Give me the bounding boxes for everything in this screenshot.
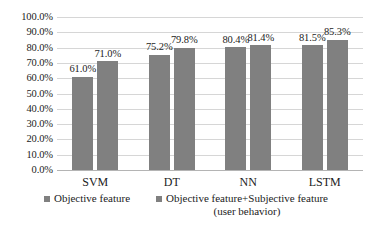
- bar-pair: 80.4%81.4%: [225, 17, 271, 170]
- bar-group: 61.0%71.0%: [57, 17, 134, 170]
- x-axis-category-label: LSTM: [287, 173, 364, 191]
- legend-swatch-icon: [44, 196, 50, 202]
- bar[interactable]: [174, 48, 195, 170]
- bar-value-label: 80.4%: [222, 35, 249, 46]
- y-axis-tick-label: 80.0%: [0, 42, 53, 53]
- y-axis-tick-label: 70.0%: [0, 58, 53, 69]
- bar-slot: 61.0%: [72, 17, 93, 170]
- bar-value-label: 85.3%: [324, 27, 351, 38]
- bar-slot: 75.2%: [149, 17, 170, 170]
- y-axis-tick-label: 0.0%: [0, 165, 53, 176]
- x-axis-category-label: NN: [210, 173, 287, 191]
- bar-chart: 100.0%90.0%80.0%70.0%60.0%50.0%40.0%30.0…: [0, 0, 372, 229]
- y-axis-tick-label: 30.0%: [0, 119, 53, 130]
- plot-area: 61.0%71.0%75.2%79.8%80.4%81.4%81.5%85.3%: [57, 17, 363, 170]
- bar[interactable]: [327, 40, 348, 171]
- bar-pair: 61.0%71.0%: [72, 17, 118, 170]
- bar-value-label: 75.2%: [146, 42, 173, 53]
- chart-legend: Objective featureObjective feature+Subje…: [0, 192, 372, 218]
- y-axis-tick-label: 40.0%: [0, 104, 53, 115]
- bar-value-label: 81.4%: [247, 33, 274, 44]
- legend-label-line2: (user behavior): [166, 205, 328, 218]
- legend-label-line1: Objective feature+Subjective feature: [166, 192, 328, 204]
- legend-label: Objective feature+Subjective feature(use…: [166, 192, 328, 218]
- legend-item[interactable]: Objective feature: [44, 192, 130, 205]
- bar-groups: 61.0%71.0%75.2%79.8%80.4%81.4%81.5%85.3%: [57, 17, 363, 170]
- bar-slot: 80.4%: [225, 17, 246, 170]
- y-axis-tick-label: 100.0%: [0, 12, 53, 23]
- bar[interactable]: [250, 45, 271, 170]
- bar-slot: 81.4%: [250, 17, 271, 170]
- bar[interactable]: [97, 61, 118, 170]
- x-axis-category-label: SVM: [57, 173, 134, 191]
- bar-slot: 79.8%: [174, 17, 195, 170]
- bar-slot: 71.0%: [97, 17, 118, 170]
- y-axis-tick-label: 50.0%: [0, 88, 53, 99]
- bar-value-label: 71.0%: [94, 49, 121, 60]
- axis-baseline: [57, 170, 363, 171]
- bar-value-label: 81.5%: [299, 33, 326, 44]
- legend-item[interactable]: Objective feature+Subjective feature(use…: [156, 192, 328, 218]
- x-axis-category-label: DT: [134, 173, 211, 191]
- y-axis: 100.0%90.0%80.0%70.0%60.0%50.0%40.0%30.0…: [0, 17, 53, 170]
- legend-label-line1: Objective feature: [54, 192, 130, 204]
- bar-value-label: 61.0%: [69, 64, 96, 75]
- bar[interactable]: [72, 77, 93, 170]
- y-axis-tick-label: 20.0%: [0, 134, 53, 145]
- y-axis-tick-label: 10.0%: [0, 149, 53, 160]
- bar-group: 80.4%81.4%: [210, 17, 287, 170]
- bar[interactable]: [149, 55, 170, 170]
- bar-pair: 75.2%79.8%: [149, 17, 195, 170]
- bar-group: 81.5%85.3%: [287, 17, 364, 170]
- legend-swatch-icon: [156, 196, 162, 202]
- bar-group: 75.2%79.8%: [134, 17, 211, 170]
- legend-label: Objective feature: [54, 192, 130, 205]
- bar-pair: 81.5%85.3%: [302, 17, 348, 170]
- bar[interactable]: [302, 45, 323, 170]
- y-axis-tick-label: 90.0%: [0, 27, 53, 38]
- bar-slot: 85.3%: [327, 17, 348, 170]
- bar-value-label: 79.8%: [171, 35, 198, 46]
- y-axis-tick-label: 60.0%: [0, 73, 53, 84]
- bar-slot: 81.5%: [302, 17, 323, 170]
- x-axis: SVMDTNNLSTM: [57, 173, 363, 191]
- bar[interactable]: [225, 47, 246, 170]
